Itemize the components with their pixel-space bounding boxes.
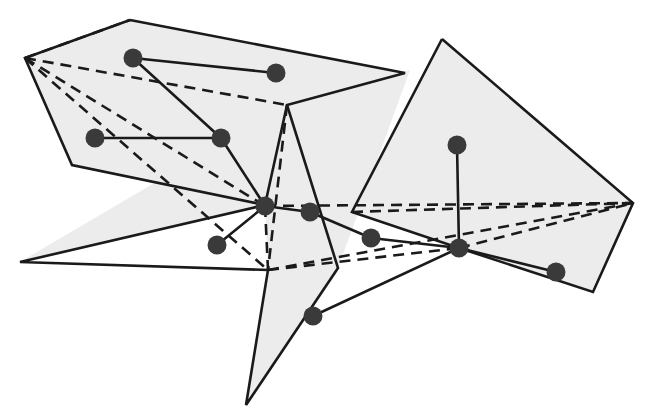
node-lower-left[interactable] bbox=[208, 236, 227, 255]
node-hub-right[interactable] bbox=[450, 239, 469, 258]
node-upper-left-a[interactable] bbox=[124, 49, 143, 68]
node-center-right[interactable] bbox=[301, 203, 320, 222]
node-right-mid[interactable] bbox=[362, 229, 381, 248]
diagram-canvas bbox=[0, 0, 657, 416]
node-mid-left-b[interactable] bbox=[212, 129, 231, 148]
node-hub-center[interactable] bbox=[256, 197, 275, 216]
node-mid-left-a[interactable] bbox=[86, 129, 105, 148]
node-right-upper[interactable] bbox=[448, 136, 467, 155]
node-bottom[interactable] bbox=[304, 307, 323, 326]
node-upper-left-b[interactable] bbox=[267, 64, 286, 83]
node-far-right[interactable] bbox=[547, 263, 566, 282]
geometric-region-graph bbox=[0, 0, 657, 416]
shaded-regions-layer bbox=[20, 20, 633, 405]
